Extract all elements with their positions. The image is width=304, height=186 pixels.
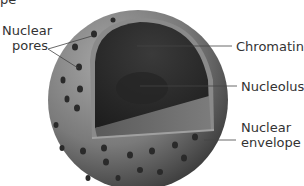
label-nuclear-envelope-line2: envelope	[241, 135, 301, 150]
label-chromatin: Chromatin	[236, 39, 304, 54]
title-fragment: pe	[0, 0, 16, 7]
label-nuclear-envelope-line1: Nuclear	[241, 120, 301, 135]
label-nucleolus: Nucleolus	[241, 79, 304, 94]
nucleus-diagram: pe Nuclear pores Chromatin Nucleolus Nuc…	[0, 0, 304, 186]
label-nuclear-pores-line1: Nuclear	[2, 23, 48, 38]
label-nuclear-envelope: Nuclear envelope	[241, 120, 301, 150]
label-nuclear-pores: Nuclear pores	[2, 23, 48, 53]
label-nuclear-pores-line2: pores	[2, 38, 48, 53]
